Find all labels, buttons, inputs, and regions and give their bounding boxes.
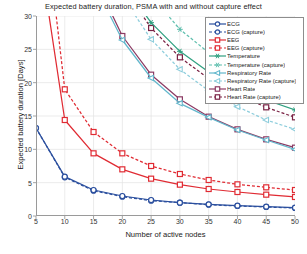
legend-item-temperature-capture-[interactable]: Temperature (capture)	[208, 60, 301, 68]
legend-label: Heart Rate	[227, 85, 255, 93]
x-tick-15: 15	[84, 218, 104, 225]
legend-label: ECG	[227, 20, 240, 28]
x-tick-45: 45	[256, 218, 276, 225]
legend-item-respiratory-rate[interactable]: Respiratory Rate	[208, 69, 301, 77]
series-ecg	[36, 126, 295, 211]
legend-item-respiratory-rate-capture-[interactable]: Respiratory Rate (capture)	[208, 77, 301, 85]
legend-label: Temperature	[227, 52, 260, 60]
legend-label: Respiratory Rate (capture)	[227, 77, 296, 85]
chart-figure: Expected battery duration, PSMA with and…	[0, 0, 307, 254]
series-ecg-capture-	[36, 126, 295, 211]
legend-item-ecg-capture-[interactable]: ECG (capture)	[208, 28, 301, 36]
x-axis-tick-labels: 5101520253035404550	[0, 218, 307, 230]
legend-item-ecg[interactable]: ECG	[208, 20, 301, 28]
x-tick-5: 5	[26, 218, 46, 225]
legend-item-eeg-capture-[interactable]: EEG (capture)	[208, 44, 301, 52]
legend-swatch-square-icon	[208, 85, 227, 93]
legend-swatch-star-icon	[208, 61, 227, 69]
legend-swatch-triangle-left-icon	[208, 69, 227, 77]
legend-label: Heart Rate (capture)	[227, 93, 281, 101]
x-tick-50: 50	[285, 218, 305, 225]
legend-item-eeg[interactable]: EEG	[208, 36, 301, 44]
x-axis-title: Number of active nodes	[36, 230, 295, 239]
chart-title: Expected battery duration, PSMA with and…	[0, 2, 307, 11]
legend-swatch-circle-icon	[208, 20, 227, 28]
legend-label: Respiratory Rate	[227, 69, 271, 77]
legend-swatch-square-icon	[208, 36, 227, 44]
legend-label: Temperature (capture)	[227, 61, 285, 69]
chart-legend: ECGECG (capture)EEGEEG (capture)Temperat…	[205, 17, 304, 104]
x-tick-35: 35	[199, 218, 219, 225]
legend-label: EEG (capture)	[227, 44, 265, 52]
y-axis-title: Expected battery duration [Days]	[16, 35, 25, 195]
legend-swatch-circle-icon	[208, 28, 227, 36]
legend-swatch-star-icon	[208, 52, 227, 60]
legend-label: EEG	[227, 36, 239, 44]
x-tick-40: 40	[227, 218, 247, 225]
x-tick-20: 20	[112, 218, 132, 225]
x-tick-25: 25	[141, 218, 161, 225]
legend-item-heart-rate[interactable]: Heart Rate	[208, 85, 301, 93]
legend-label: ECG (capture)	[227, 28, 265, 36]
x-tick-30: 30	[170, 218, 190, 225]
y-tick-30: 30	[4, 13, 32, 20]
x-tick-10: 10	[55, 218, 75, 225]
legend-swatch-triangle-left-icon	[208, 77, 227, 85]
legend-item-temperature[interactable]: Temperature	[208, 52, 301, 60]
legend-item-heart-rate-capture-[interactable]: Heart Rate (capture)	[208, 93, 301, 101]
legend-swatch-square-icon	[208, 93, 227, 101]
legend-swatch-square-icon	[208, 44, 227, 52]
